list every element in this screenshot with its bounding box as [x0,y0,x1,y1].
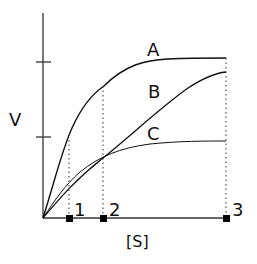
marker-2-label: 2 [109,199,120,220]
curve-b [43,72,226,218]
marker-3-label: 3 [232,199,243,220]
marker-2 [100,215,107,222]
y-axis-label: V [9,109,22,130]
curve-c-label: C [147,123,160,144]
kinetics-chart: V [S] A B C 1 2 3 [0,0,257,264]
x-axis-label: [S] [126,232,149,251]
marker-1 [66,215,73,222]
curve-a-label: A [147,39,160,60]
curve-c [43,141,226,218]
marker-1-label: 1 [74,199,85,220]
marker-3 [223,215,230,222]
curve-b-label: B [148,81,160,102]
